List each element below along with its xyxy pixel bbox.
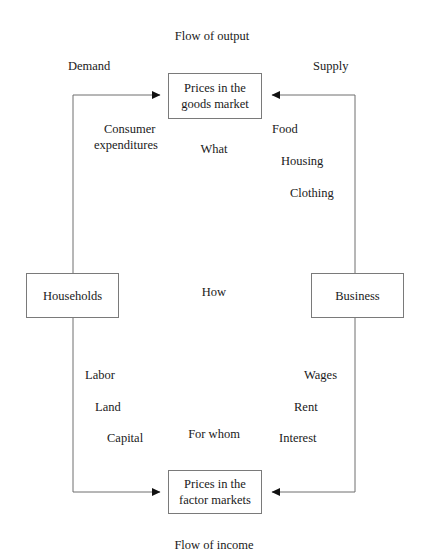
node-goods-market[interactable]: Prices in the goods market [168, 73, 262, 119]
node-business-label: Business [335, 288, 379, 304]
label-food: Food [272, 122, 298, 138]
title-flow-of-output: Flow of output [175, 29, 249, 45]
label-supply: Supply [313, 59, 348, 75]
node-goods-market-line1: Prices in the [184, 80, 246, 96]
label-housing: Housing [281, 154, 323, 170]
label-land: Land [95, 400, 121, 416]
label-labor: Labor [85, 368, 115, 384]
label-capital: Capital [107, 431, 143, 447]
label-wages: Wages [304, 368, 337, 384]
node-goods-market-line2: goods market [181, 96, 249, 112]
label-rent: Rent [294, 400, 318, 416]
node-factor-markets[interactable]: Prices in the factor markets [168, 470, 262, 514]
node-households[interactable]: Households [26, 273, 119, 318]
label-question-what: What [200, 142, 227, 158]
node-business[interactable]: Business [311, 273, 404, 318]
node-factor-markets-line1: Prices in the [184, 476, 246, 492]
label-consumer: Consumer [104, 122, 155, 138]
label-clothing: Clothing [290, 186, 334, 202]
label-expenditures: expenditures [94, 138, 158, 154]
label-question-for-whom: For whom [188, 427, 240, 443]
circular-flow-diagram: Flow of output Demand Supply Prices in t… [0, 0, 432, 557]
label-demand: Demand [68, 59, 110, 75]
node-households-label: Households [43, 288, 102, 304]
title-flow-of-income: Flow of income [174, 538, 253, 554]
label-interest: Interest [279, 431, 316, 447]
node-factor-markets-line2: factor markets [179, 492, 251, 508]
label-question-how: How [202, 285, 226, 301]
